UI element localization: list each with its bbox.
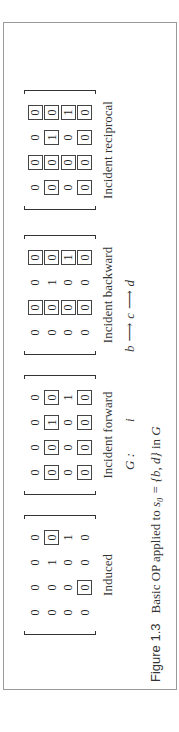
matrix-cell: 0: [27, 525, 44, 550]
matrix-cell: 1: [60, 385, 77, 410]
matrix-cell: 0: [77, 295, 94, 320]
cell-value: 0: [44, 465, 59, 480]
label-incident-reciprocal: Incident reciprocal: [100, 80, 116, 220]
cell-value: 0: [77, 105, 92, 120]
cell-value: 1: [61, 250, 76, 265]
cell-value: 0: [44, 325, 59, 340]
cell-value: 0: [28, 415, 43, 430]
cell-value: 0: [28, 130, 43, 145]
cell-value: 0: [61, 325, 76, 340]
cell-value: 0: [28, 325, 43, 340]
matrix-cell: 1: [44, 270, 61, 295]
matrix-incident-forward: 0000001000010000: [24, 375, 96, 495]
cell-value: 0: [44, 155, 59, 170]
node-b: b: [122, 346, 137, 353]
cell-value: 1: [44, 275, 59, 290]
matrix-cell: 0: [44, 435, 61, 460]
arrow-icon: ⟶: [122, 323, 137, 342]
matrix-cell: 0: [60, 270, 77, 295]
cell-value: 1: [61, 530, 76, 545]
matrix-cell: 1: [60, 100, 77, 125]
matrix-cell: 0: [44, 460, 61, 485]
cell-value: 0: [77, 555, 92, 570]
left-bracket: [24, 631, 96, 635]
matrix-induced: 0000001000010000: [24, 515, 96, 635]
matrix-cell: 0: [44, 320, 61, 345]
right-bracket: [24, 515, 96, 519]
matrix-cell: 0: [60, 410, 77, 435]
cell-value: 0: [77, 530, 92, 545]
matrix-cell: 0: [77, 525, 94, 550]
cell-value: 0: [28, 440, 43, 455]
node-i: i: [122, 418, 137, 422]
cell-value: 0: [28, 300, 43, 315]
matrix-cell: 0: [44, 385, 61, 410]
cell-value: 0: [28, 530, 43, 545]
cell-value: 0: [77, 300, 92, 315]
right-bracket: [24, 375, 96, 379]
matrix-cell: 0: [77, 410, 94, 435]
matrix-cell: 0: [77, 460, 94, 485]
matrix-cell: 0: [27, 575, 44, 600]
cell-value: 0: [44, 530, 59, 545]
cell-value: 0: [61, 130, 76, 145]
cell-value: 0: [61, 300, 76, 315]
caption-label: Figure 1.3: [148, 623, 163, 682]
matrix-grid: 0000001000010000: [27, 385, 93, 485]
cell-value: 0: [44, 390, 59, 405]
matrix-cell: 0: [27, 270, 44, 295]
matrix-cell: 1: [60, 245, 77, 270]
cell-value: 0: [77, 250, 92, 265]
arrow-icon: ⟶: [122, 290, 137, 309]
cell-value: 0: [28, 180, 43, 195]
matrix-cell: 0: [60, 150, 77, 175]
matrix-cell: 0: [44, 150, 61, 175]
matrix-cell: 0: [27, 320, 44, 345]
cell-value: 1: [44, 555, 59, 570]
matrix-cell: 0: [60, 460, 77, 485]
matrix-cell: 0: [60, 320, 77, 345]
cell-value: 0: [61, 440, 76, 455]
matrix-cell: 0: [77, 245, 94, 270]
graph-label: G :: [122, 453, 137, 470]
matrix-cell: 0: [27, 460, 44, 485]
matrix-cell: 0: [27, 175, 44, 200]
matrix-cell: 0: [77, 600, 94, 625]
matrix-cell: 0: [27, 385, 44, 410]
cell-value: 0: [61, 580, 76, 595]
matrix-grid: 0000001000010000: [27, 100, 93, 200]
cell-value: 0: [44, 300, 59, 315]
cell-value: 0: [77, 155, 92, 170]
label-induced: Induced: [100, 505, 116, 645]
cell-value: 0: [28, 155, 43, 170]
matrix-cell: 0: [77, 550, 94, 575]
matrix-cell: 0: [27, 435, 44, 460]
cell-value: 0: [44, 580, 59, 595]
cell-value: 0: [44, 605, 59, 620]
cell-value: 0: [44, 440, 59, 455]
cell-value: 0: [77, 580, 92, 595]
cell-value: 0: [28, 580, 43, 595]
matrix-cell: 0: [77, 125, 94, 150]
matrix-cell: 0: [77, 320, 94, 345]
caption-math: s₀ = {b, d}: [148, 452, 163, 507]
cell-value: 0: [77, 415, 92, 430]
cell-value: 1: [61, 390, 76, 405]
matrix-cell: 0: [44, 175, 61, 200]
matrix-incident-backward: 0000001000010000: [24, 235, 96, 355]
figure-stage: 0000001000010000 0000001000010000 000000…: [0, 0, 179, 732]
cell-value: 0: [28, 250, 43, 265]
cell-value: 0: [61, 180, 76, 195]
figure-caption: Figure 1.3Basic OP applied to s₀ = {b, d…: [148, 426, 164, 682]
cell-value: 0: [44, 180, 59, 195]
matrix-cell: 0: [77, 575, 94, 600]
matrix-cell: 0: [44, 295, 61, 320]
cell-value: 0: [28, 555, 43, 570]
node-d: d: [122, 280, 137, 287]
matrix-cell: 0: [44, 100, 61, 125]
matrix-cell: 0: [60, 600, 77, 625]
cell-value: 0: [61, 415, 76, 430]
left-bracket: [24, 206, 96, 210]
label-incident-forward: Incident forward: [100, 365, 116, 505]
cell-value: 0: [77, 440, 92, 455]
